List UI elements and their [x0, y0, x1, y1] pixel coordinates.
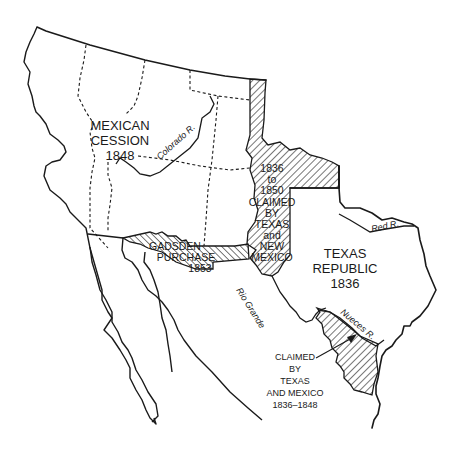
state-boundary-2	[126, 60, 145, 114]
label-red-river: Red R.	[370, 218, 399, 234]
baja-inner-coast	[90, 247, 158, 422]
svg-text:BY: BY	[289, 364, 301, 374]
svg-text:TEXAS: TEXAS	[280, 376, 310, 386]
label-texas-republic-3: 1836	[331, 276, 360, 291]
label-claimed-texas-mexico: CLAIMED BY TEXAS AND MEXICO 1836–1848	[266, 352, 323, 410]
historical-territory-map: MEXICAN CESSION 1848 TEXAS REPUBLIC 1836…	[0, 0, 451, 452]
label-mexican-cession-2: CESSION	[91, 133, 150, 148]
state-boundary-5	[138, 156, 250, 170]
sonora-coast	[144, 252, 172, 372]
svg-text:CLAIMED: CLAIMED	[275, 352, 316, 362]
label-colorado-river: Colorado R.	[155, 122, 197, 162]
svg-text:AND MEXICO: AND MEXICO	[266, 388, 323, 398]
state-boundary-4	[204, 96, 218, 246]
svg-text:1836–1848: 1836–1848	[272, 400, 317, 410]
label-mexican-cession-3: 1848	[106, 148, 135, 163]
california-mexico-border	[88, 234, 123, 238]
label-gadsden-3: 1853	[188, 262, 212, 274]
svg-text:MEXICO: MEXICO	[251, 251, 292, 263]
label-mexican-cession-1: MEXICAN	[90, 118, 149, 133]
state-boundary-6	[108, 162, 112, 232]
label-texas-republic-1: TEXAS	[324, 246, 367, 261]
svg-text:1850: 1850	[260, 184, 284, 196]
label-texas-republic-2: REPUBLIC	[312, 261, 377, 276]
label-rio-grande: Rio Grande	[234, 286, 267, 330]
